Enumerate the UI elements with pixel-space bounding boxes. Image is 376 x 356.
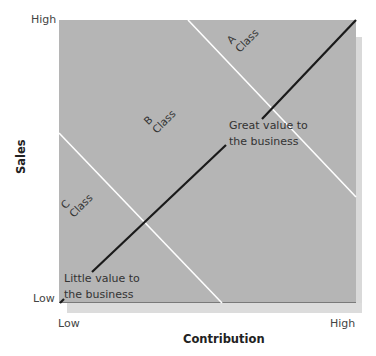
y-axis-title: Sales: [16, 139, 28, 174]
y-axis-high-label: High: [31, 14, 56, 25]
little-value-line1: Little value to: [64, 271, 140, 287]
diagram-lines: [0, 0, 376, 356]
x-axis-title: Contribution: [183, 334, 265, 346]
great-value-line1: Great value to: [229, 118, 308, 134]
value-diagonal-segment-mid: [92, 145, 226, 272]
x-axis-low-label: Low: [58, 318, 80, 329]
x-axis-high-label: High: [330, 318, 355, 329]
little-value-line2: the business: [64, 287, 140, 303]
y-axis-low-label: Low: [33, 293, 55, 304]
great-value-line2: the business: [229, 134, 308, 150]
value-diagonal-segment-high: [262, 20, 356, 119]
great-value-annotation: Great value to the business: [229, 118, 308, 150]
little-value-annotation: Little value to the business: [64, 271, 140, 303]
